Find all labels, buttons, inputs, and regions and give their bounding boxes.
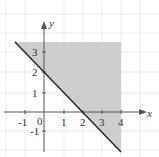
x-tick-label: 3 <box>99 116 105 128</box>
y-axis-label: y <box>48 17 54 29</box>
x-axis-label: x <box>146 107 152 119</box>
y-tick-label: 3 <box>32 46 38 58</box>
inequality-graph: x y 0 -1 1 2 3 4 3 2 1 -1 <box>0 0 159 157</box>
x-tick-label: 2 <box>80 116 86 128</box>
y-tick-label: 1 <box>32 87 38 99</box>
y-tick-label: -1 <box>30 125 39 137</box>
x-tick-label: 1 <box>61 116 67 128</box>
y-tick-label: 2 <box>32 66 38 78</box>
x-tick-label: 4 <box>118 116 124 128</box>
x-axis-arrow-icon <box>139 109 147 115</box>
x-tick-label: -1 <box>18 116 27 128</box>
y-axis-arrow-icon <box>41 21 47 29</box>
